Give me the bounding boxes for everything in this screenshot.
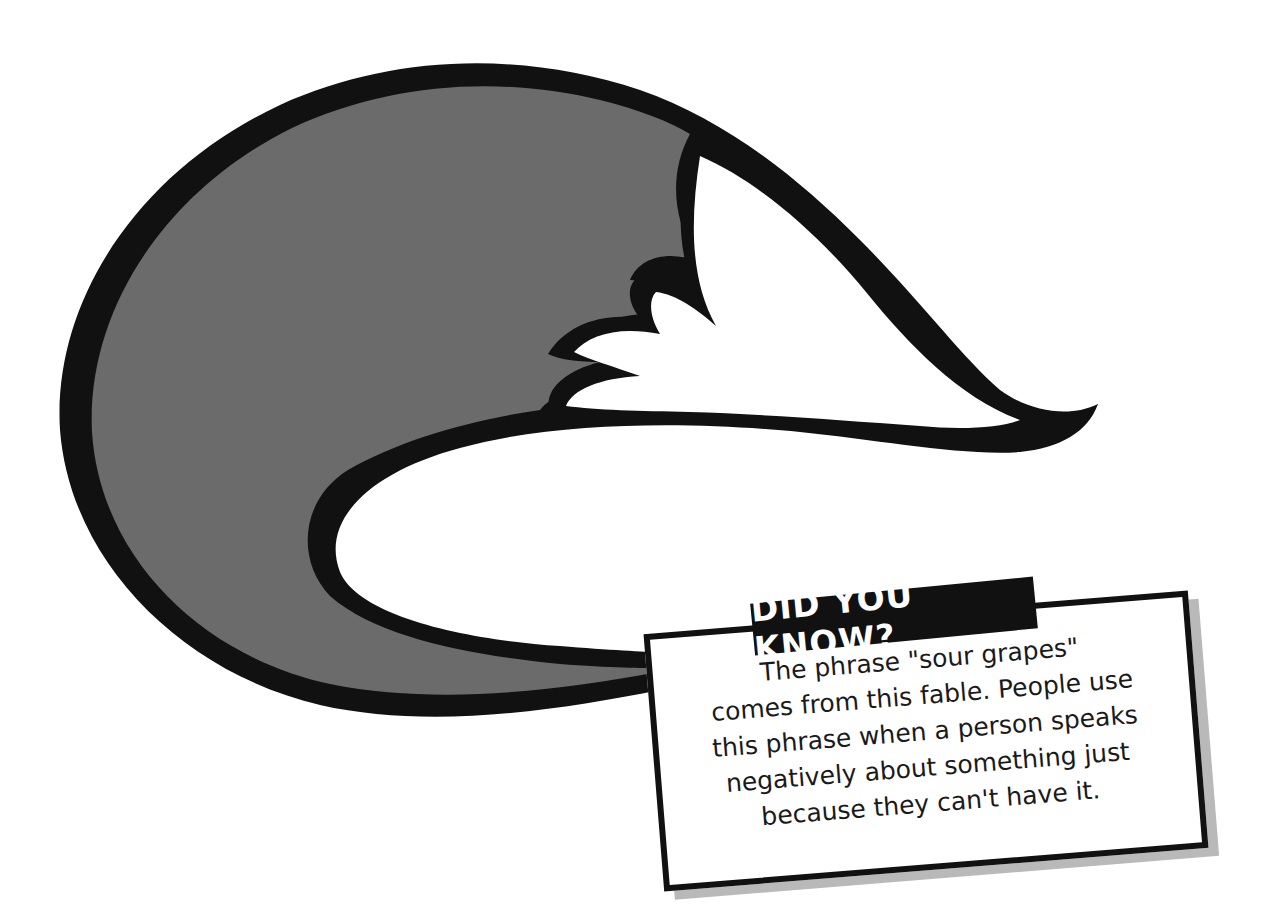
did-you-know-callout: DID YOU KNOW? The phrase "sour grapes" c… bbox=[0, 0, 1268, 914]
page: DID YOU KNOW? The phrase "sour grapes" c… bbox=[0, 0, 1268, 914]
